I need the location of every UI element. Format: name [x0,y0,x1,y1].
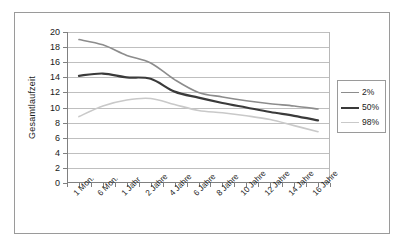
x-axis-tick-mark [67,183,68,187]
legend-label: 98% [362,118,379,127]
series-line [79,74,318,121]
legend-item: 98% [341,115,382,130]
legend-swatch-icon [341,122,359,123]
chart-frame: Gesamtlaufzeit 02468101214161820 1 Mon.6… [14,12,390,234]
x-axis-tick-labels: 1 Mon.6 Mon.1 Jahr2 Jahre4 Jahre6 Jahre8… [15,188,391,235]
legend-label: 2% [362,88,374,97]
chart-plot-wrapper: Gesamtlaufzeit 02468101214161820 1 Mon.6… [15,13,391,235]
legend-item: 2% [341,85,382,100]
series-lines [67,32,330,183]
legend-swatch-icon [341,92,359,93]
chart-legend: 2%50%98% [337,80,386,133]
legend-label: 50% [362,103,379,112]
legend-swatch-icon [341,107,359,109]
legend-item: 50% [341,100,382,115]
